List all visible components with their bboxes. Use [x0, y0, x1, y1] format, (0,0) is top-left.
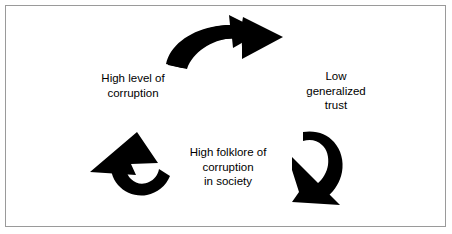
figure-root: High level of corruption Low generalized…: [0, 0, 452, 234]
stage-label-high-corruption: High level of corruption: [78, 71, 188, 100]
cycle-arrows-group: [0, 0, 452, 234]
arrow-top-head: [241, 17, 283, 59]
arrow-left-up-head: [90, 132, 158, 175]
stage-label-low-trust: Low generalized trust: [288, 69, 384, 113]
arrow-top-body: [166, 25, 248, 68]
stage-label-folklore: High folklore of corruption in society: [172, 145, 284, 189]
